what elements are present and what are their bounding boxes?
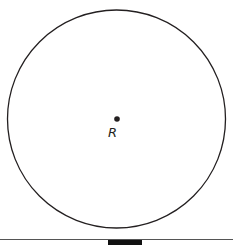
bottom-block xyxy=(108,240,142,245)
center-point xyxy=(114,116,120,122)
center-point-label: R xyxy=(108,125,117,140)
circle-diagram: R xyxy=(0,0,233,245)
